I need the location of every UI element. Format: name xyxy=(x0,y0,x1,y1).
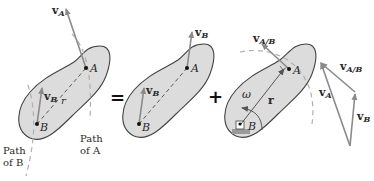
rigid-body xyxy=(123,44,214,137)
velocity-a-label: vB xyxy=(194,26,208,40)
point-a-dot xyxy=(84,66,88,70)
velocity-b-label: vB xyxy=(356,110,370,124)
point-b-label: B xyxy=(39,121,48,134)
panel-translation: A B vB vB xyxy=(123,26,214,137)
point-b-dot xyxy=(238,122,241,125)
omega-label: ω xyxy=(242,88,251,101)
point-a-dot xyxy=(287,67,291,71)
panel-general-motion: A B vA vB r Path of B Path of A xyxy=(3,4,110,176)
point-b-dot xyxy=(35,122,39,126)
relative-velocity-diagram: A B vA vB r Path of B Path of A = A B vB… xyxy=(0,0,374,181)
velocity-a-arrow xyxy=(66,9,86,68)
velocity-b-arrow xyxy=(350,94,355,146)
point-a-dot xyxy=(185,66,189,70)
velocity-a-rel-b-label: vA/B xyxy=(252,32,276,46)
panel-vector-triangle: vA/B vA vB xyxy=(318,60,370,146)
plus-sign: + xyxy=(208,86,223,107)
point-a-label: A xyxy=(89,62,98,75)
velocity-a-label: vA xyxy=(51,4,65,18)
point-b-label: B xyxy=(247,120,256,133)
point-b-dot xyxy=(137,122,141,126)
panel-rotation-about-b: A B vA/B ω r xyxy=(225,32,316,137)
velocity-a-rel-b-label: vA/B xyxy=(339,60,363,74)
radius-label: r xyxy=(268,94,274,107)
rigid-body xyxy=(19,46,110,139)
point-a-label: A xyxy=(190,62,199,75)
equals-sign: = xyxy=(110,87,125,108)
path-of-b-label-line2: of B xyxy=(3,157,23,168)
path-of-a-label-line2: of A xyxy=(80,145,101,156)
path-of-b-label-line1: Path xyxy=(3,145,26,156)
point-b-label: B xyxy=(141,121,150,134)
point-a-label: A xyxy=(292,64,301,77)
path-of-a-label-line1: Path xyxy=(80,133,103,144)
